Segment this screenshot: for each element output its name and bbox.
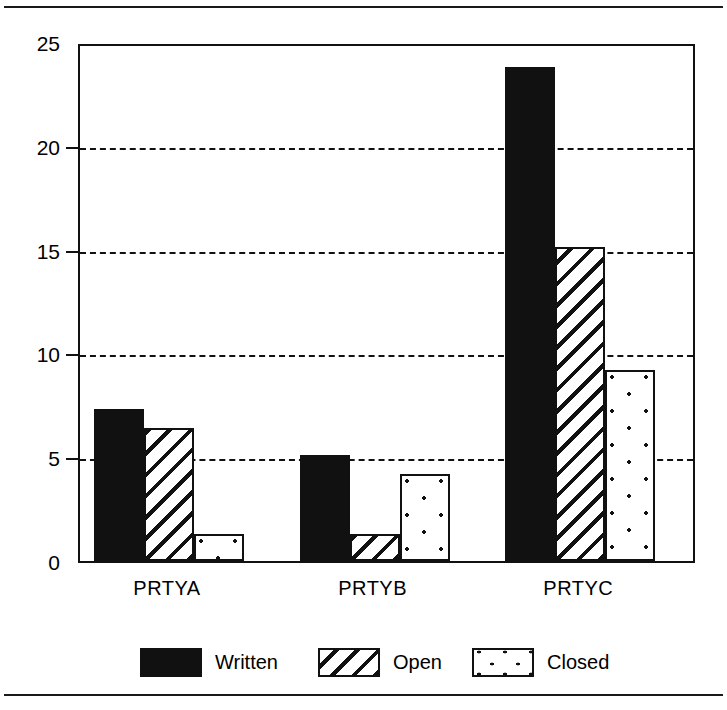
legend-swatch-closed [472, 648, 534, 677]
bar-prtyb-open [350, 534, 400, 561]
legend-swatch-open [318, 648, 380, 677]
legend-label-closed: Closed [547, 652, 609, 672]
y-axis-tick-label: 15 [8, 241, 60, 262]
bar-prtya-open [144, 428, 194, 561]
y-axis-tick-label: 0 [8, 552, 60, 573]
bar-prtyc-closed [605, 370, 655, 561]
bar-prtyb-written [300, 455, 350, 561]
y-axis-tick-label: 20 [8, 137, 60, 158]
legend-swatch-written [140, 648, 202, 677]
x-axis-label-prtya: PRTYA [97, 578, 237, 598]
x-axis-label-prtyb: PRTYB [303, 578, 443, 598]
y-axis-tick-label: 25 [8, 33, 60, 54]
y-axis-tick-label: 10 [8, 344, 60, 365]
bar-chart-figure: 0510152025 PRTYAPRTYBPRTYC WrittenOpenCl… [0, 0, 727, 710]
bar-prtya-closed [194, 534, 244, 561]
gridline [80, 148, 693, 150]
legend-item-written: Written [140, 645, 278, 679]
y-axis-tick-label: 5 [8, 448, 60, 469]
legend-label-written: Written [215, 652, 278, 672]
legend-label-open: Open [393, 652, 442, 672]
legend-item-closed: Closed [472, 645, 609, 679]
plot-area [78, 44, 695, 563]
x-axis-label-prtyc: PRTYC [508, 578, 648, 598]
bottom-divider-rule [4, 694, 723, 696]
chart-legend: WrittenOpenClosed [140, 645, 610, 679]
legend-item-open: Open [318, 645, 442, 679]
top-divider-rule [4, 6, 723, 8]
bar-prtya-written [94, 409, 144, 561]
bar-prtyc-open [555, 247, 605, 561]
bar-prtyb-closed [400, 474, 450, 561]
bar-prtyc-written [505, 67, 555, 561]
